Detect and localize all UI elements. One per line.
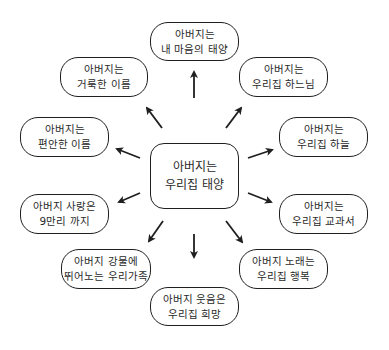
node-bottom-left: 아버지 강물에 뛰어노는 우리가족 (61, 249, 151, 289)
arrow-to-right (248, 150, 272, 158)
node-right-lower: 아버지는 우리집 교과서 (279, 194, 368, 234)
node-top-right: 아버지는 우리집 하느님 (239, 57, 328, 97)
node-line-2: 내 마음의 태양 (161, 42, 228, 57)
node-line-2: 편안한 이름 (38, 137, 91, 152)
node-line-1: 아버지는 (304, 199, 344, 214)
node-line-1: 아버지는 (304, 122, 344, 137)
node-line-1: 아버지는 (264, 62, 304, 77)
arrow-to-left-lower (119, 193, 140, 202)
arrow-to-left (117, 149, 140, 158)
node-line-1: 아버지 노래는 (252, 254, 315, 269)
arrow-to-top-left (147, 108, 162, 128)
node-line-2: 뛰어노는 우리가족 (64, 269, 147, 284)
arrow-to-bottom-right (226, 221, 242, 242)
node-line-2: 9만리 까지 (39, 214, 89, 229)
node-line-1: 아버지는 (45, 122, 85, 137)
center-line-2: 우리집 태양 (165, 176, 224, 194)
node-left: 아버지는 편안한 이름 (20, 117, 109, 157)
node-right: 아버지는 우리집 하늘 (279, 117, 368, 157)
arrow-to-bottom-left (149, 221, 163, 241)
node-line-2: 우리집 행복 (257, 269, 310, 284)
node-top-left: 아버지는 거룩한 이름 (60, 57, 148, 97)
center-node: 아버지는 우리집 태양 (150, 143, 239, 209)
center-line-1: 아버지는 (173, 158, 217, 176)
node-line-2: 우리집 희망 (168, 307, 221, 322)
node-line-2: 우리집 하늘 (297, 137, 350, 152)
node-line-1: 아버지는 (84, 62, 124, 77)
node-bottom-right: 아버지 노래는 우리집 행복 (239, 249, 328, 289)
arrow-to-right-lower (248, 193, 271, 202)
node-top: 아버지는 내 마음의 태양 (150, 22, 239, 61)
node-line-2: 우리집 교과서 (292, 214, 355, 229)
node-left-lower: 아버지 사랑은 9만리 까지 (20, 194, 109, 234)
node-line-1: 아버지 강물에 (74, 254, 137, 269)
arrow-to-top-right (226, 108, 241, 128)
node-line-1: 아버지 웃음은 (163, 292, 226, 307)
node-line-2: 거룩한 이름 (77, 77, 130, 92)
node-line-2: 우리집 하느님 (252, 77, 315, 92)
node-line-1: 아버지 사랑은 (33, 199, 96, 214)
node-bottom: 아버지 웃음은 우리집 희망 (150, 287, 239, 326)
node-line-1: 아버지는 (175, 27, 215, 42)
